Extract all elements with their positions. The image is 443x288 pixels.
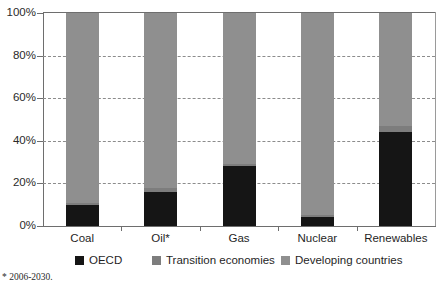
bar-segment-transition-economies-renewables — [379, 126, 412, 132]
legend-item-developing-countries: Developing countries — [281, 252, 402, 268]
chart-container: 0%20%40%60%80%100% CoalOil*GasNuclearRen… — [0, 0, 443, 288]
y-tick-0 — [37, 226, 43, 227]
bar-segment-developing-countries-renewables — [379, 13, 412, 126]
legend-item-transition-economies: Transition economies — [152, 252, 275, 268]
y-axis-label-100: 100% — [0, 7, 36, 18]
y-tick-20 — [37, 183, 43, 184]
bar-segment-developing-countries-coal — [66, 13, 99, 203]
y-axis-label-40: 40% — [0, 135, 36, 146]
bar-segment-oecd-nuclear — [301, 217, 334, 226]
x-axis-label-oil: Oil* — [121, 231, 199, 245]
bar-gas — [223, 13, 256, 226]
y-axis-label-20: 20% — [0, 177, 36, 188]
x-axis-line — [43, 226, 436, 227]
legend-swatch-icon-transition-economies — [152, 256, 161, 265]
legend-label: Developing countries — [295, 254, 402, 266]
y-axis-label-60: 60% — [0, 92, 36, 103]
y-tick-100 — [37, 13, 43, 14]
y-axis-label-80: 80% — [0, 50, 36, 61]
bar-segment-transition-economies-nuclear — [301, 215, 334, 217]
y-tick-80 — [37, 56, 43, 57]
y-tick-60 — [37, 98, 43, 99]
bar-segment-oecd-renewables — [379, 132, 412, 226]
bar-segment-oecd-coal — [66, 205, 99, 226]
legend-swatch-icon-developing-countries — [281, 256, 290, 265]
y-axis-label-0: 0% — [0, 220, 36, 231]
x-axis-label-gas: Gas — [200, 231, 278, 245]
legend-item-oecd: OECD — [75, 252, 122, 268]
bar-renewables — [379, 13, 412, 226]
footnote-text: * 2006-2030. — [2, 272, 53, 282]
chart-legend: OECDTransition economiesDeveloping count… — [0, 252, 443, 270]
y-axis-line — [43, 12, 44, 227]
bar-segment-transition-economies-oil — [144, 188, 177, 192]
bar-segment-oecd-oil — [144, 192, 177, 226]
bar-nuclear — [301, 13, 334, 226]
bar-segment-transition-economies-coal — [66, 203, 99, 205]
plot-right-border — [435, 12, 436, 227]
bar-oil — [144, 13, 177, 226]
bar-segment-oecd-gas — [223, 166, 256, 226]
x-axis-label-nuclear: Nuclear — [278, 231, 356, 245]
x-axis-label-coal: Coal — [43, 231, 121, 245]
legend-swatch-icon-oecd — [75, 256, 84, 265]
bar-segment-transition-economies-gas — [223, 164, 256, 166]
y-tick-40 — [37, 141, 43, 142]
bar-segment-developing-countries-gas — [223, 13, 256, 164]
legend-label: OECD — [89, 254, 122, 266]
bar-segment-developing-countries-oil — [144, 13, 177, 188]
x-axis-label-renewables: Renewables — [357, 231, 435, 245]
bar-coal — [66, 13, 99, 226]
legend-label: Transition economies — [166, 254, 275, 266]
bar-segment-developing-countries-nuclear — [301, 13, 334, 215]
